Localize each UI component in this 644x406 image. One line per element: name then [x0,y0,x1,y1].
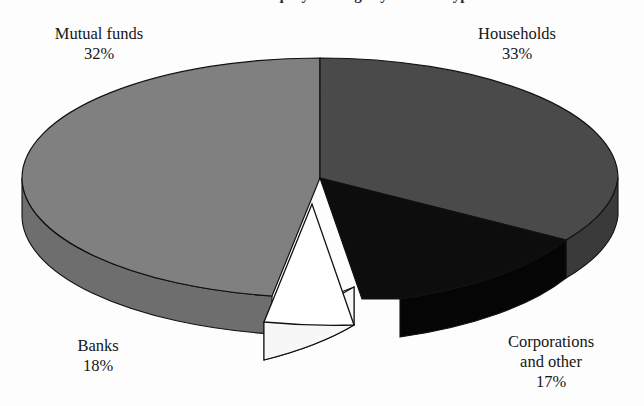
slice-label-corporations-name-line2: and other [458,352,644,372]
slice-label-corporations: Corporations and other 17% [458,332,644,392]
slice-label-banks-name: Banks [22,336,174,356]
slice-label-mutual-funds-pct: 32% [14,44,184,64]
slice-label-mutual-funds-name: Mutual funds [14,24,184,44]
slice-label-banks-pct: 18% [22,356,174,376]
slice-label-households-pct: 33% [432,44,602,64]
slice-label-mutual-funds: Mutual funds 32% [14,24,184,64]
slice-label-corporations-name-line1: Corporations [458,332,644,352]
pie-chart-figure: Distribution of equity holdings by inves… [0,0,644,406]
slice-label-corporations-pct: 17% [458,372,644,392]
slice-label-households-name: Households [432,24,602,44]
slice-label-households: Households 33% [432,24,602,64]
slice-label-banks: Banks 18% [22,336,174,376]
